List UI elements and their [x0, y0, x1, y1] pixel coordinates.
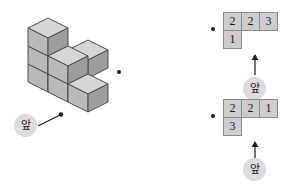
grid-cell[interactable]: 1: [223, 30, 242, 49]
grid-cell[interactable]: 2: [241, 12, 260, 31]
grid-cell-empty: [241, 30, 260, 49]
grid-cell-empty: [259, 117, 278, 136]
grid-cell-empty: [241, 117, 260, 136]
grid-cell[interactable]: 1: [259, 99, 278, 118]
top-grid-bullet-marker: [211, 27, 215, 31]
grid-cell[interactable]: 3: [259, 12, 278, 31]
grid-row: 2 2 3: [223, 12, 277, 31]
top-grid-up-arrow-icon: [249, 54, 261, 76]
grid-row: 1: [223, 30, 277, 49]
grid-row: 3: [223, 117, 277, 136]
cube-stack-illustration: [26, 16, 136, 116]
grid-cell[interactable]: 2: [241, 99, 260, 118]
top-plan-grid: 2 2 3 1: [223, 13, 277, 49]
bottom-grid-bullet-marker: [211, 114, 215, 118]
bottom-grid-front-badge: 앞: [243, 158, 266, 181]
bottom-plan-grid: 2 2 1 3: [223, 100, 277, 136]
grid-cell[interactable]: 2: [223, 99, 242, 118]
cube-stack-svg: [26, 16, 136, 116]
solid-bullet-marker: [117, 70, 121, 74]
top-grid-front-badge: 앞: [243, 77, 266, 100]
solid-leader-line: [36, 112, 68, 130]
grid-cell[interactable]: 2: [223, 12, 242, 31]
grid-row: 2 2 1: [223, 99, 277, 118]
grid-cell[interactable]: 3: [223, 117, 242, 136]
grid-cell-empty: [259, 30, 278, 49]
solid-front-badge: 앞: [14, 114, 37, 137]
figure-root: 앞 2 2 3 1 앞 2 2 1 3: [0, 0, 297, 184]
